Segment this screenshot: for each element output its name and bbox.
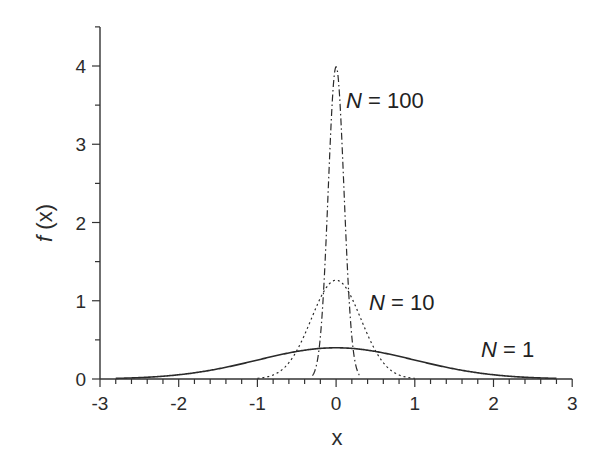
x-axis-label: x [332, 425, 343, 450]
y-axis-label-rest: (x) [32, 204, 57, 236]
x-tick-label: 0 [331, 393, 342, 414]
x-tick-label: -1 [249, 393, 266, 414]
annotation-n100-var: N [346, 88, 362, 113]
chart: -3-2-1012301234 x f (x) N = 100 N = 10 N… [0, 0, 608, 469]
annotation-n100-value: = 100 [362, 88, 424, 113]
annotation-n1-var: N [481, 337, 497, 362]
y-tick-label: 3 [75, 134, 86, 155]
x-tick-label: 2 [488, 393, 499, 414]
x-tick-label: -3 [92, 393, 109, 414]
annotation-n10: N = 10 [369, 290, 434, 315]
y-tick-label: 2 [75, 213, 86, 234]
x-tick-label: -2 [170, 393, 187, 414]
y-tick-label: 0 [75, 369, 86, 390]
y-axis-label: f (x) [32, 204, 57, 242]
x-tick-label: 1 [410, 393, 421, 414]
annotation-n10-var: N [369, 290, 385, 315]
annotation-n1-value: = 1 [497, 337, 534, 362]
axes [92, 27, 572, 387]
x-tick-label: 3 [567, 393, 578, 414]
annotation-n10-value: = 10 [385, 290, 435, 315]
annotation-n100: N = 100 [346, 88, 424, 113]
y-tick-label: 1 [75, 291, 86, 312]
y-tick-label: 4 [75, 56, 86, 77]
plot-area [116, 67, 557, 379]
series-line-n100 [312, 67, 359, 376]
annotation-n1: N = 1 [481, 337, 534, 362]
